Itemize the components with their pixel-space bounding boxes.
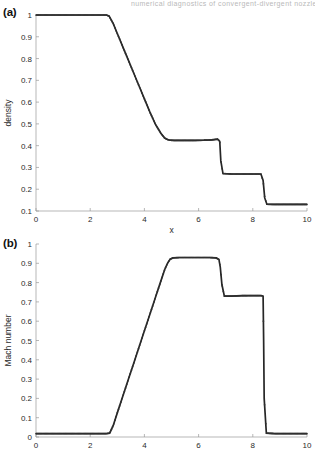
y-tick-label: 0.2	[21, 394, 33, 403]
x-tick-label: 10	[303, 215, 312, 224]
y-tick-label: 0	[28, 433, 33, 442]
y-tick-label: 0.7	[21, 76, 33, 85]
figure-container: numerical diagnostics of convergent-dive…	[0, 0, 315, 461]
data-series-line	[36, 258, 307, 434]
y-tick-label: 1	[28, 11, 33, 20]
mach-number-plot: 00.10.20.30.40.50.60.70.80.910246810Mach…	[0, 232, 315, 461]
x-tick-label: 4	[142, 215, 147, 224]
y-tick-label: 0.7	[21, 298, 33, 307]
y-tick-label: 0.6	[21, 98, 33, 107]
x-tick-label: 0	[34, 441, 39, 450]
x-tick-label: 6	[196, 441, 201, 450]
y-tick-label: 0.6	[21, 317, 33, 326]
y-tick-label: 0.2	[21, 185, 33, 194]
y-axis-title: density	[3, 99, 13, 127]
x-tick-label: 2	[88, 441, 93, 450]
x-tick-label: 6	[196, 215, 201, 224]
y-tick-label: 0.1	[21, 414, 33, 423]
chart-panel-b: (b) 00.10.20.30.40.50.60.70.80.910246810…	[0, 232, 315, 461]
y-tick-label: 0.9	[21, 259, 33, 268]
x-tick-label: 8	[251, 441, 256, 450]
y-tick-label: 0.5	[21, 337, 33, 346]
data-series-markers	[35, 14, 308, 205]
y-tick-label: 0.9	[21, 33, 33, 42]
y-tick-label: 0.3	[21, 163, 33, 172]
y-axis-title: Mach number	[3, 314, 13, 366]
y-tick-label: 1	[28, 240, 33, 249]
chart-panel-a: (a) 0.10.20.30.40.50.60.70.80.910246810d…	[0, 0, 315, 234]
y-tick-label: 0.4	[21, 356, 33, 365]
x-tick-label: 8	[251, 215, 256, 224]
x-tick-label: 0	[34, 215, 39, 224]
y-tick-label: 0.3	[21, 375, 33, 384]
axis-frame	[36, 15, 307, 211]
x-tick-label: 2	[88, 215, 93, 224]
x-tick-label: 4	[142, 441, 147, 450]
y-tick-label: 0.4	[21, 142, 33, 151]
y-tick-label: 0.8	[21, 279, 33, 288]
data-series-line	[36, 15, 307, 204]
x-tick-label: 10	[303, 441, 312, 450]
density-plot: 0.10.20.30.40.50.60.70.80.910246810densi…	[0, 0, 315, 234]
axis-frame	[36, 244, 307, 437]
data-series-markers	[35, 257, 308, 435]
y-tick-label: 0.5	[21, 120, 33, 129]
y-tick-label: 0.1	[21, 207, 33, 216]
y-tick-label: 0.8	[21, 55, 33, 64]
